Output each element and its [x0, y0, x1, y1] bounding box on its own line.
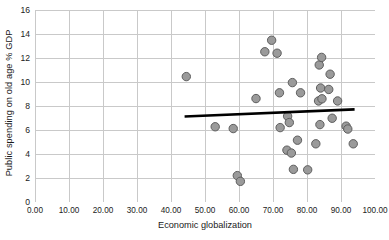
x-axis-tick-label: 50.00: [195, 206, 216, 215]
x-axis-tick-label: 0.00: [27, 206, 43, 215]
x-axis-tick-label: 80.00: [297, 206, 318, 215]
x-axis-tick-label: 100.00: [362, 206, 387, 215]
x-axis-tick-label: 90.00: [331, 206, 352, 215]
x-axis-title-label: Economic globalization: [158, 220, 252, 230]
x-axis-tick-label: 30.00: [127, 206, 148, 215]
x-axis-tick-label: 10.00: [59, 206, 80, 215]
scatter-chart: Public spending on old age % GDP 0246810…: [0, 0, 389, 240]
x-axis-tick-labels: 0.0010.0020.0030.0040.0050.0060.0070.008…: [0, 0, 389, 240]
x-axis-tick-label: 70.00: [263, 206, 284, 215]
x-axis-title: Economic globalization: [35, 220, 375, 230]
x-axis-tick-label: 60.00: [229, 206, 250, 215]
x-axis-tick-label: 20.00: [93, 206, 114, 215]
x-axis-tick-label: 40.00: [161, 206, 182, 215]
